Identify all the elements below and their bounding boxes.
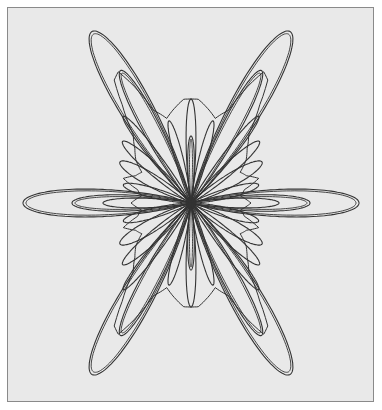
polar-pattern-plot — [8, 8, 375, 403]
figure-frame — [7, 7, 374, 402]
